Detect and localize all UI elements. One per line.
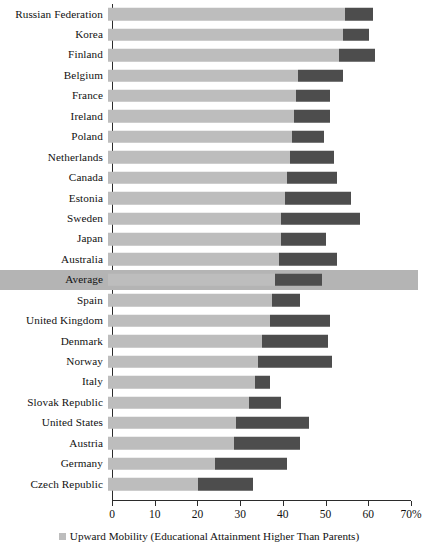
- bar-plot-area: [108, 168, 418, 188]
- bar-plot-area: [108, 270, 418, 290]
- stacked-bar: [108, 478, 253, 491]
- bar-row: Estonia: [0, 188, 418, 208]
- bar-segment-other-mobility: [292, 131, 324, 144]
- bar-plot-area: [108, 433, 418, 453]
- bar-segment-upward-mobility: [108, 171, 287, 184]
- x-axis-tick-label: 0: [109, 508, 115, 520]
- stacked-bar: [108, 294, 300, 307]
- bar-row: Denmark: [0, 331, 418, 351]
- stacked-bar: [108, 69, 343, 82]
- bar-segment-upward-mobility: [108, 478, 198, 491]
- bar-row-label: Slovak Republic: [0, 397, 108, 408]
- stacked-bar: [108, 335, 328, 348]
- x-axis-tick-label: 50: [320, 508, 332, 520]
- bar-segment-upward-mobility: [108, 335, 262, 348]
- x-axis-tick-label: 20: [192, 508, 204, 520]
- bar-segment-upward-mobility: [108, 376, 255, 389]
- bar-segment-upward-mobility: [108, 28, 343, 41]
- x-axis-tick: [326, 501, 327, 506]
- bar-segment-other-mobility: [285, 192, 351, 205]
- bar-row: Slovak Republic: [0, 392, 418, 412]
- bar-row-label: Australia: [0, 254, 108, 265]
- bar-plot-area: [108, 65, 418, 85]
- bar-segment-upward-mobility: [108, 355, 258, 368]
- stacked-bar: [108, 110, 330, 123]
- legend-label: Upward Mobility (Educational Attainment …: [70, 530, 359, 542]
- bar-segment-other-mobility: [294, 110, 330, 123]
- bar-plot-area: [108, 106, 418, 126]
- bar-plot-area: [108, 454, 418, 474]
- bar-segment-other-mobility: [287, 171, 336, 184]
- bar-row: Japan: [0, 229, 418, 249]
- stacked-bar: [108, 131, 324, 144]
- bar-row-label: Denmark: [0, 336, 108, 347]
- stacked-bar: [108, 437, 300, 450]
- bar-segment-other-mobility: [272, 294, 300, 307]
- x-axis-line: [112, 500, 411, 501]
- bar-row-label: Finland: [0, 49, 108, 60]
- bar-row-label: Austria: [0, 438, 108, 449]
- bar-segment-other-mobility: [281, 233, 326, 246]
- bar-segment-other-mobility: [215, 458, 288, 471]
- bar-row-label: Russian Federation: [0, 9, 108, 20]
- bar-segment-other-mobility: [281, 212, 360, 225]
- x-axis-tick: [283, 501, 284, 506]
- bar-row: Norway: [0, 351, 418, 371]
- stacked-bar: [108, 274, 322, 287]
- bar-row-label: Korea: [0, 29, 108, 40]
- x-axis-tick: [112, 501, 113, 506]
- stacked-bar: [108, 396, 281, 409]
- bar-row: Austria: [0, 433, 418, 453]
- bar-plot-area: [108, 351, 418, 371]
- bar-plot-area: [108, 372, 418, 392]
- x-axis-tick: [368, 501, 369, 506]
- bar-segment-upward-mobility: [108, 417, 236, 430]
- bar-plot-area: [108, 188, 418, 208]
- bar-row-label: Average: [0, 274, 108, 285]
- bar-row: Poland: [0, 127, 418, 147]
- x-axis-tick: [240, 501, 241, 506]
- x-axis-tick-label: 60: [363, 508, 375, 520]
- bar-plot-area: [108, 311, 418, 331]
- stacked-bar: [108, 151, 334, 164]
- bar-row: France: [0, 86, 418, 106]
- chart-legend: Upward Mobility (Educational Attainment …: [0, 530, 418, 542]
- bar-segment-upward-mobility: [108, 131, 292, 144]
- bar-row: Sweden: [0, 208, 418, 228]
- bar-row: Czech Republic: [0, 474, 418, 494]
- bar-segment-other-mobility: [298, 69, 343, 82]
- x-axis-tick-label: 40: [277, 508, 289, 520]
- bar-row-label: United Kingdom: [0, 315, 108, 326]
- stacked-bar: [108, 8, 373, 21]
- bar-segment-upward-mobility: [108, 49, 339, 62]
- bar-row-label: Japan: [0, 233, 108, 244]
- stacked-bar: [108, 28, 369, 41]
- bar-segment-other-mobility: [262, 335, 328, 348]
- bar-plot-area: [108, 290, 418, 310]
- bar-segment-other-mobility: [270, 315, 330, 328]
- bar-row: Germany: [0, 454, 418, 474]
- bar-segment-upward-mobility: [108, 458, 215, 471]
- bar-segment-other-mobility: [343, 28, 369, 41]
- bar-segment-upward-mobility: [108, 294, 272, 307]
- bar-row-label: Czech Republic: [0, 479, 108, 490]
- bar-segment-upward-mobility: [108, 274, 275, 287]
- stacked-bar: [108, 90, 330, 103]
- bar-segment-upward-mobility: [108, 8, 345, 21]
- x-axis-tick: [155, 501, 156, 506]
- bar-row-label: Norway: [0, 356, 108, 367]
- x-axis-tick-label: 10: [149, 508, 161, 520]
- bar-row-label: Estonia: [0, 193, 108, 204]
- bar-plot-area: [108, 331, 418, 351]
- bar-segment-other-mobility: [255, 376, 270, 389]
- bar-plot-area: [108, 249, 418, 269]
- bar-row: Ireland: [0, 106, 418, 126]
- x-axis-tick-label: 30: [234, 508, 246, 520]
- bar-row: Average: [0, 270, 418, 290]
- bar-segment-other-mobility: [345, 8, 373, 21]
- bar-plot-area: [108, 86, 418, 106]
- bar-segment-upward-mobility: [108, 253, 279, 266]
- bar-row: Belgium: [0, 65, 418, 85]
- bar-row: Canada: [0, 168, 418, 188]
